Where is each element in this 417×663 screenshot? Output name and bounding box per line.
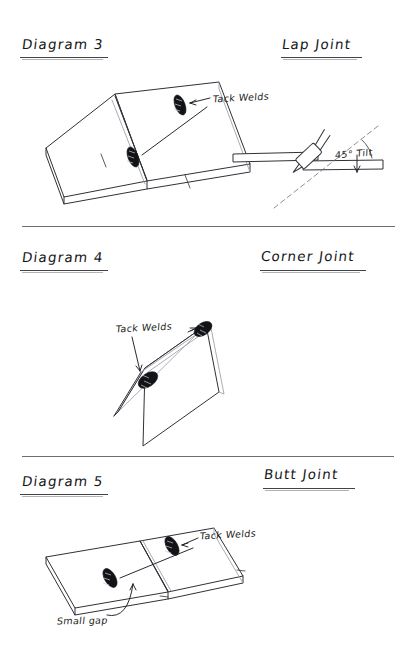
lap-joint-section-root-arc	[303, 155, 310, 161]
lap-joint-section-top-plate	[233, 152, 318, 162]
lap-joint-tack-welds-label: Tack Welds	[212, 91, 269, 105]
lap-joint-title-underline	[281, 57, 362, 58]
corner-joint-tack-weld-bottom	[135, 368, 160, 391]
corner-joint-back-plate-edge-b	[114, 372, 141, 416]
butt-joint-seam-line-b	[143, 541, 171, 591]
butt-joint-title-underline	[263, 488, 355, 489]
welding-torch-body	[295, 143, 322, 170]
corner-joint-front-plate-thickness	[206, 325, 224, 394]
diagram-5-title-text: Diagram 5	[21, 473, 105, 489]
lap-joint-overlap-seam	[115, 96, 147, 180]
welding-torch-cable	[312, 130, 333, 150]
corner-joint-drawing	[114, 318, 224, 446]
butt-joint-small-gap-label: Small gap	[56, 615, 108, 627]
corner-joint-back-plate-bottom	[114, 412, 118, 416]
butt-joint-left-plate-bottom	[75, 599, 168, 615]
butt-joint-tack-welds-label: Tack Welds	[199, 528, 256, 542]
corner-joint-back-plate-inner	[141, 334, 197, 372]
divider-2	[22, 456, 394, 457]
butt-joint-left-plate-face	[46, 541, 168, 608]
diagram-4-title-underline	[20, 270, 108, 271]
butt-joint-tack-weld-leader-arrow	[182, 538, 198, 545]
lap-joint-overlap-tick-right	[185, 175, 190, 188]
lap-joint-tack-weld-upper	[172, 93, 189, 116]
divider-1	[22, 226, 395, 227]
butt-joint-tick-right	[237, 570, 245, 571]
diagram-4-title: Diagram 4	[21, 249, 105, 265]
lap-joint-section-bottom-plate	[303, 160, 383, 170]
diagram-5-title-underline	[20, 494, 108, 495]
lap-joint-45-degree-dashed-line	[274, 126, 378, 208]
small-gap-leader-arrow	[107, 584, 133, 616]
lap-joint-section-view	[233, 126, 383, 208]
diagram-5-title: Diagram 5	[21, 473, 105, 489]
corner-joint-title: Corner Joint	[260, 248, 356, 264]
diagram-3-title-text: Diagram 3	[21, 36, 105, 52]
corner-joint-back-plate	[118, 325, 206, 412]
diagram-3-title-underline	[20, 57, 108, 58]
diagram-4-title-text: Diagram 4	[21, 249, 105, 265]
lap-joint-upper-plate-edge	[147, 164, 250, 189]
butt-joint-right-plate-thickness	[168, 576, 243, 599]
lap-joint-overlap-tick-left	[101, 154, 106, 167]
corner-joint-apex-seam-shadow	[148, 329, 209, 372]
butt-joint-drawing	[46, 528, 245, 616]
corner-joint-title-text: Corner Joint	[260, 248, 356, 264]
lap-joint-tilt-angle-label: 45° Tilt	[335, 146, 373, 160]
corner-joint-tack-welds-label: Tack Welds	[115, 321, 172, 335]
butt-joint-tack-weld-leader-2	[120, 548, 193, 578]
welding-torch-tip	[292, 164, 302, 174]
corner-joint-tack-weld-top	[191, 318, 214, 339]
butt-joint-title: Butt Joint	[263, 466, 340, 482]
butt-joint-left-plate-thickness	[46, 557, 75, 615]
welding-torch	[286, 130, 334, 176]
lap-joint-tack-weld-lower	[125, 145, 142, 168]
butt-joint-title-text: Butt Joint	[263, 466, 340, 482]
lap-joint-overlap-seam-shadow	[112, 100, 145, 184]
lap-joint-tack-weld-leader-2	[142, 107, 207, 155]
butt-joint-tick-bottom	[160, 596, 168, 597]
lap-joint-tack-weld-leader-arrow	[190, 98, 210, 103]
corner-joint-title-underline	[260, 270, 366, 271]
lap-joint-lower-plate-face	[46, 94, 147, 197]
corner-joint-front-plate	[143, 325, 219, 446]
drawing-layer	[0, 0, 417, 663]
butt-joint-tack-weld-lower	[100, 566, 120, 590]
corner-joint-back-plate-edge-a	[118, 368, 145, 412]
corner-joint-tack-weld-leader-bottom	[132, 337, 140, 371]
butt-joint-seam-line-a	[140, 541, 168, 591]
lap-joint-lower-plate-bottom	[64, 189, 147, 204]
diagram-3-title: Diagram 3	[21, 36, 105, 52]
corner-joint-tack-weld-leader-top	[188, 328, 196, 332]
butt-joint-tack-weld-upper	[162, 534, 182, 558]
lap-joint-title: Lap Joint	[281, 36, 352, 52]
lap-joint-title-text: Lap Joint	[281, 36, 352, 52]
diagram-sheet: Diagram 3 Lap Joint Diagram 4 Corner Joi…	[0, 0, 417, 663]
lap-joint-lower-plate-thickness	[46, 148, 64, 204]
